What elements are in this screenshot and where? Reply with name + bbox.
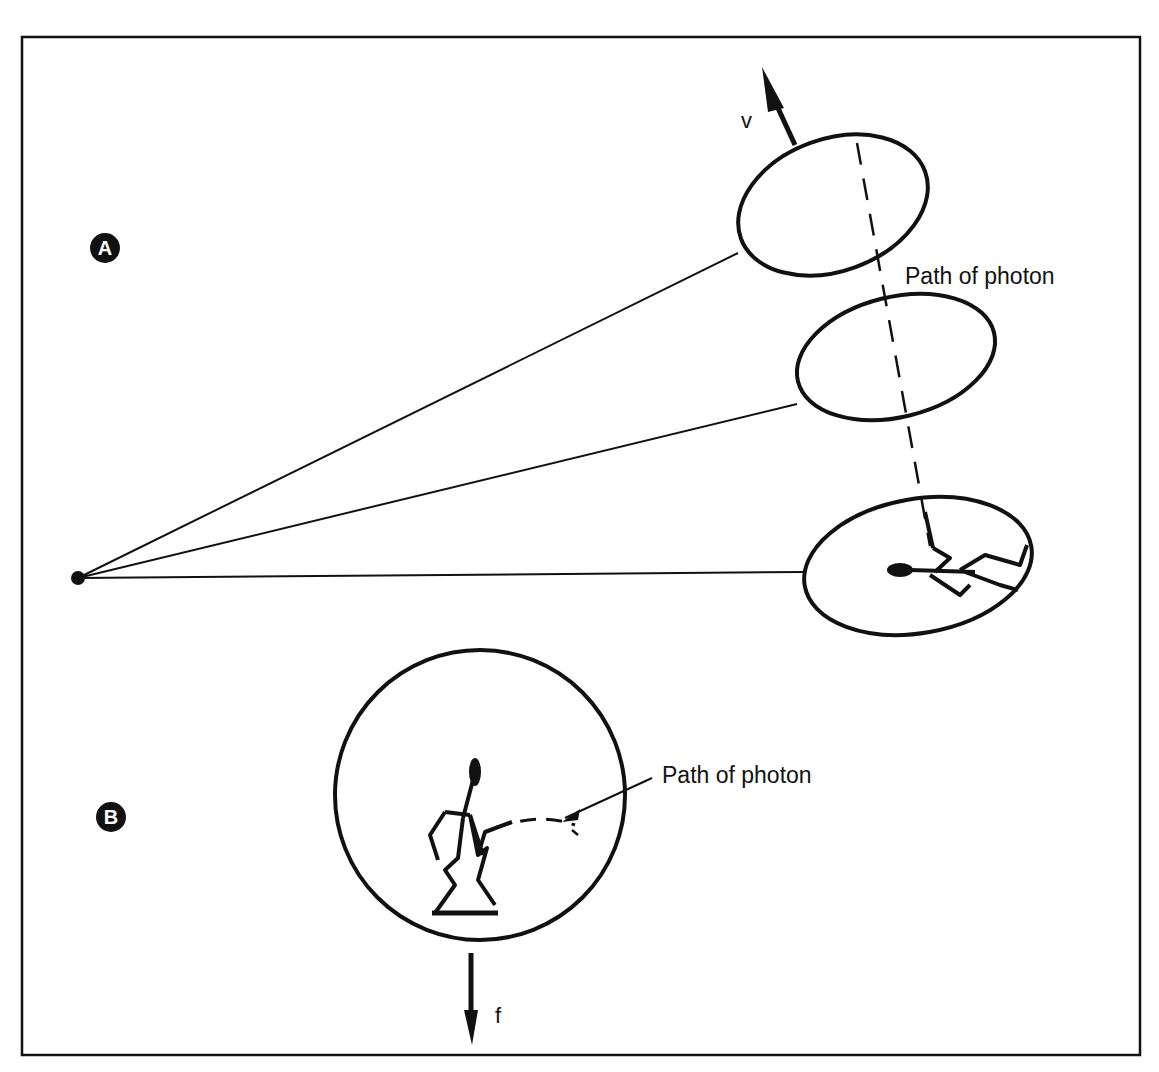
ellipse-position-3 <box>793 480 1043 652</box>
diagram-canvas <box>0 0 1159 1072</box>
circle-b <box>335 650 625 940</box>
photon-path-b <box>495 819 575 828</box>
panel-a-rays <box>78 253 805 578</box>
origin-point <box>71 571 85 585</box>
label-leader-b-arrowhead <box>562 809 580 822</box>
photon-path-a <box>857 143 930 546</box>
diagram-figure: A B Path of photon Path of photon v f <box>0 0 1159 1072</box>
stick-figure-b-head <box>469 758 481 786</box>
panel-b-badge: B <box>96 802 126 832</box>
photon-path-b-end <box>572 830 578 835</box>
force-arrow <box>464 953 478 1045</box>
stick-figure-a-head <box>887 563 913 577</box>
photon-path-label-b: Path of photon <box>662 762 812 789</box>
velocity-arrow <box>762 67 795 145</box>
stick-figure-b <box>430 780 512 913</box>
figure-frame <box>22 37 1140 1055</box>
velocity-label: v <box>741 108 752 134</box>
force-label: f <box>495 1003 501 1029</box>
stick-figure-a <box>910 512 1027 595</box>
panel-a-badge: A <box>90 233 120 263</box>
photon-path-label-a: Path of photon <box>905 263 1055 290</box>
